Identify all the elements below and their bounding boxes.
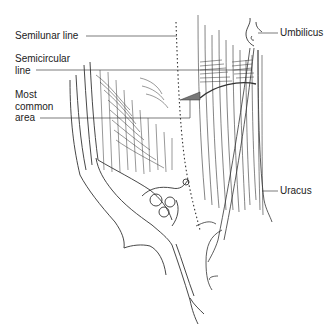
label-most-common-area-3: area xyxy=(15,112,53,124)
inguinal-vessels xyxy=(142,179,204,324)
label-umbilicus: Umbilicus xyxy=(280,27,323,39)
rectus-fibers xyxy=(198,15,263,215)
label-semicircular-line-1: Semicircular xyxy=(15,53,70,65)
label-semilunar-line: Semilunar line xyxy=(15,30,78,42)
umbilicus-shape xyxy=(246,18,262,46)
label-semicircular-line-2: line xyxy=(15,65,70,77)
leader-most-common xyxy=(40,98,190,118)
flank-vessels xyxy=(70,62,98,175)
label-most-common-area-2: common xyxy=(15,101,53,113)
pelvic-outline xyxy=(80,158,172,275)
label-most-common-area-1: Most xyxy=(15,89,53,101)
bladder-outline xyxy=(196,222,222,290)
anatomy-drawing xyxy=(0,0,334,324)
leader-lines xyxy=(36,33,278,191)
oblique-muscles xyxy=(96,70,172,174)
label-uracus: Uracus xyxy=(280,185,312,197)
semicircular-line xyxy=(200,83,256,98)
semilunar-line xyxy=(176,22,200,230)
label-semicircular-line: Semicircular line xyxy=(15,53,70,76)
label-most-common-area: Most common area xyxy=(15,89,53,124)
most-common-area-hatch xyxy=(180,92,200,100)
